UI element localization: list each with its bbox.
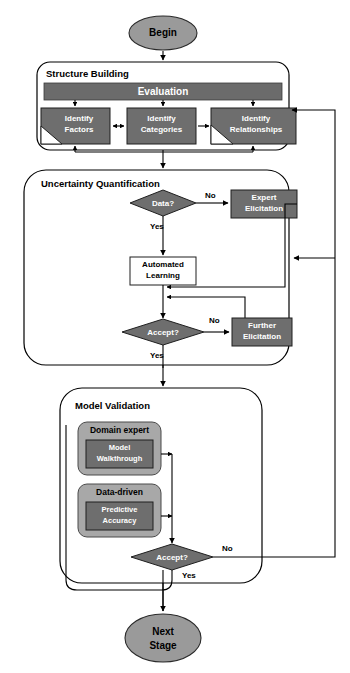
automated-learning-label-line2: Learning: [146, 271, 180, 280]
edge-label-uq-accept-no: No: [209, 316, 220, 325]
data-decision-label: Data?: [152, 199, 174, 208]
expert-elicitation-label-line2: Elicitation: [245, 204, 283, 213]
terminal-next-stage-label-line2: Stage: [149, 640, 177, 651]
predictive-accuracy-label-line1: Predictive: [102, 505, 138, 514]
data-driven-label: Data-driven: [96, 487, 143, 497]
identify-factors-label-line2: Factors: [65, 125, 94, 134]
edge-label-uq-accept-yes: Yes: [150, 351, 164, 360]
edge-label-mv-accept-yes: Yes: [182, 571, 196, 580]
automated-learning-label-line1: Automated: [142, 260, 184, 269]
model-walkthrough-label-line2: Walkthrough: [97, 454, 143, 463]
mv-accept-decision-label: Accept?: [156, 553, 188, 562]
terminal-next-stage: Next Stage: [125, 614, 201, 662]
identify-factors-label-line1: Identify: [65, 114, 94, 123]
expert-elicitation-label-line1: Expert: [252, 193, 277, 202]
domain-expert-label: Domain expert: [90, 425, 149, 435]
model-walkthrough-label-line1: Model: [109, 443, 131, 452]
group-uncertainty-quantification-title: Uncertainty Quantification: [41, 178, 160, 189]
terminal-begin-label: Begin: [149, 27, 177, 38]
node-domain-expert: Domain expert Model Walkthrough: [78, 422, 161, 475]
identify-categories-label-line2: Categories: [141, 125, 183, 134]
group-structure-building-title: Structure Building: [46, 68, 129, 79]
edge-label-mv-accept-no: No: [222, 544, 233, 553]
evaluation-bar-label: Evaluation: [138, 86, 189, 97]
flowchart-canvas: Structure Building Uncertainty Quantific…: [0, 0, 350, 673]
further-elicitation-label-line2: Elicitation: [243, 332, 281, 341]
edge-label-data-no: No: [205, 191, 216, 200]
further-elicitation-label-line1: Further: [248, 321, 276, 330]
uq-accept-decision-label: Accept?: [147, 328, 179, 337]
edge-label-data-yes: Yes: [150, 222, 164, 231]
node-identify-categories: Identify Categories: [127, 108, 196, 144]
predictive-accuracy-label-line2: Accuracy: [103, 516, 138, 525]
identify-categories-label-line1: Identify: [147, 114, 176, 123]
terminal-next-stage-label-line1: Next: [152, 626, 174, 637]
node-identify-factors: Identify Factors: [41, 108, 110, 144]
node-data-driven: Data-driven Predictive Accuracy: [78, 484, 161, 537]
node-automated-learning: Automated Learning: [130, 257, 196, 285]
identify-relationships-label-line1: Identify: [242, 114, 271, 123]
identify-relationships-label-line2: Relationships: [230, 125, 283, 134]
node-further-elicitation: Further Elicitation: [232, 318, 292, 346]
terminal-begin: Begin: [129, 16, 197, 50]
group-model-validation-title: Model Validation: [75, 400, 150, 411]
node-identify-relationships: Identify Relationships: [211, 108, 296, 144]
flowchart-diagram: Structure Building Uncertainty Quantific…: [0, 0, 350, 673]
